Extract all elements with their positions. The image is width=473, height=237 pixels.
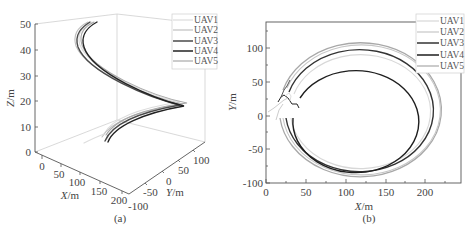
x-tick-200: 200	[111, 194, 128, 206]
svg-text:UAV4: UAV4	[440, 50, 464, 60]
x-tick-50: 50	[301, 186, 313, 198]
x-tick-200: 200	[417, 186, 434, 198]
y-tick-100: 100	[193, 154, 210, 166]
svg-text:UAV1: UAV1	[440, 16, 464, 26]
panel-b-legend: UAV1 UAV2 UAV3 UAV4 UAV5	[416, 14, 464, 73]
z-tick-10: 10	[20, 121, 32, 133]
panel-a-y-tick-labels: -100 -50 0 50 100	[128, 154, 210, 212]
y-tick-50: 50	[178, 164, 190, 176]
z-tick-50: 50	[20, 18, 32, 30]
panel-a-legend: UAV1 UAV2 UAV3 UAV4 UAV5	[172, 14, 218, 69]
y-tick-neg50: -50	[248, 143, 263, 155]
x-tick-100: 100	[338, 186, 355, 198]
y-tick-neg50: -50	[143, 186, 158, 198]
z-tick-40: 40	[20, 44, 32, 56]
y-tick-neg100: -100	[128, 200, 149, 212]
panel-a-caption: (a)	[114, 212, 127, 225]
x-tick-150: 150	[91, 185, 108, 197]
panel-b-caption: (b)	[363, 212, 376, 225]
panel-a-z-axis-label: Z/m	[4, 89, 16, 107]
panel-b-y-axis-label: Y/m	[226, 93, 238, 111]
figure: 50 40 30 20 10 0 Z/m 0 50 100 150 200 X/…	[0, 0, 473, 237]
panel-a-y-axis-label: Y/m	[166, 186, 184, 198]
panel-b-x-axis-label: X/m	[354, 200, 374, 212]
svg-text:UAV3: UAV3	[194, 36, 218, 46]
panel-b-xy-plot: 100 50 0 -50 -100 Y/m 0 50 100 150 200	[226, 14, 464, 225]
panel-b-y-tick-labels: 100 50 0 -50 -100	[243, 42, 264, 189]
svg-text:UAV2: UAV2	[440, 27, 464, 37]
x-tick-100: 100	[69, 176, 86, 188]
traj-a-takeoff	[84, 134, 104, 143]
x-tick-0: 0	[263, 186, 269, 198]
panel-a-x-axis-label: X/m	[60, 189, 80, 201]
svg-text:UAV2: UAV2	[194, 25, 218, 35]
x-tick-50: 50	[54, 168, 66, 180]
y-tick-0: 0	[258, 110, 264, 122]
svg-text:UAV1: UAV1	[194, 15, 218, 25]
z-tick-30: 30	[20, 70, 32, 82]
x-tick-0: 0	[39, 160, 45, 172]
panel-a-trajectories	[75, 22, 187, 143]
y-tick-50: 50	[252, 76, 264, 88]
panel-b-x-tick-labels: 0 50 100 150 200	[263, 186, 434, 198]
svg-text:UAV5: UAV5	[194, 56, 218, 66]
panel-a-z-tick-labels: 50 40 30 20 10 0	[20, 18, 32, 158]
panel-a-3d-plot: 50 40 30 20 10 0 Z/m 0 50 100 150 200 X/…	[4, 14, 218, 225]
z-tick-20: 20	[20, 95, 32, 107]
z-tick-0: 0	[26, 146, 32, 158]
svg-text:UAV5: UAV5	[440, 61, 464, 71]
x-tick-150: 150	[378, 186, 395, 198]
panel-a-x-tick-labels: 0 50 100 150 200	[39, 160, 128, 206]
y-tick-neg100: -100	[243, 177, 264, 189]
svg-text:UAV4: UAV4	[194, 46, 218, 56]
svg-text:UAV3: UAV3	[440, 38, 464, 48]
y-tick-100: 100	[247, 42, 264, 54]
